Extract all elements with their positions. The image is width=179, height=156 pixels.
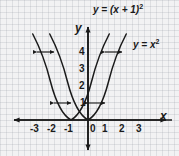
x-tick--2: -2 (47, 124, 56, 134)
x-tick--3: -3 (30, 124, 39, 134)
curve-label-base-exponent: 2 (156, 38, 160, 45)
x-tick-1: 1 (102, 124, 108, 134)
x-tick-2: 2 (119, 124, 125, 134)
x-axis-label: x (160, 110, 167, 122)
y-tick-2: 2 (79, 81, 85, 91)
curve-label-shifted-exponent: 2 (139, 3, 143, 10)
curve-label-base-text: y = x (133, 39, 156, 50)
y-tick-1: 1 (80, 98, 86, 108)
x-tick-3: 3 (136, 124, 142, 134)
curve-y-equals-x-plus-1-squared (33, 34, 110, 120)
x-tick-0: 0 (90, 124, 96, 134)
curve-label-shifted-parabola: y = (x + 1)2 (93, 5, 143, 15)
curve-label-base-parabola: y = x2 (133, 40, 159, 50)
graph-figure: y = (x + 1)2 y = x2 y x -3 -2 -1 0 1 2 3… (0, 0, 179, 156)
y-axis-label: y (75, 22, 82, 34)
x-tick--1: -1 (64, 124, 73, 134)
curve-label-shifted-text: y = (x + 1) (93, 4, 139, 15)
y-tick-4: 4 (79, 47, 85, 57)
y-tick-3: 3 (79, 64, 85, 74)
